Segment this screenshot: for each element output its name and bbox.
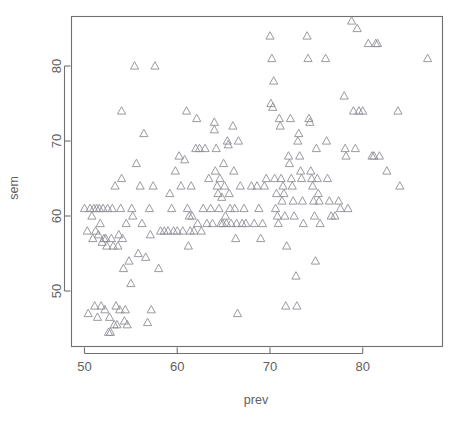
x-tick-label: 70 [263, 359, 277, 374]
x-tick-label: 80 [356, 359, 370, 374]
y-tick-label: 80 [49, 59, 64, 73]
y-tick-label: 50 [49, 284, 64, 298]
scatter-plot-figure: 50607080 50607080 prev sem [0, 0, 454, 423]
y-tick-label: 70 [49, 134, 64, 148]
y-tick-label: 60 [49, 209, 64, 223]
chart-canvas: 50607080 50607080 prev sem [0, 0, 454, 423]
x-tick-label: 50 [77, 359, 91, 374]
x-tick-label: 60 [170, 359, 184, 374]
y-axis-title: sem [7, 176, 21, 200]
x-axis-title: prev [244, 393, 269, 407]
